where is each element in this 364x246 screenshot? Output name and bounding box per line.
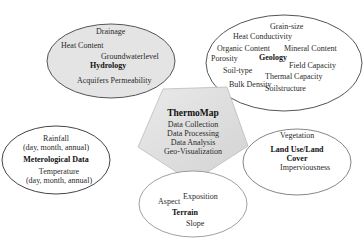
hydrology-item-heat-content: Heat Content [61,41,103,50]
hydrology-item-groundwaterlevel: Groundwaterlevel [101,52,159,61]
meteo-item-temperature: Temperature [19,167,99,176]
landuse-item-imperviousness: Imperviousness [280,163,330,172]
thermomap-item-data-processing: Data Processing [153,129,233,138]
terrain-title: Terrain [172,208,198,217]
meteo-item-rainfall-period: (day, month, annual) [16,143,96,152]
geology-item-field-capacity: Field Capacity [289,61,336,70]
hydrology-title: Hydrology [90,61,126,70]
geology-item-heat-conductivity: Heat Conductivity [233,32,292,41]
geology-item-soil-type: Soil-type [223,66,252,75]
landuse-title-line2: Cover [262,154,332,163]
hydrology-item-drainage: Drainage [96,27,125,36]
geology-item-grain-size: Grain-size [270,22,303,31]
landuse-title-line1: Land Use/Land [262,145,332,154]
meteo-item-temperature-period: (day, month, annual) [19,176,99,185]
landuse-item-vegetation: Vegetation [280,131,314,140]
terrain-item-slope: Slope [186,219,204,228]
terrain-item-aspect: Aspect [158,197,180,206]
meteo-title: Meterological Data [6,155,106,164]
meteo-item-rainfall: Rainfall [16,134,96,143]
thermomap-item-data-analysis: Data Analysis [153,138,233,147]
geology-title: Geology [259,53,287,62]
thermomap-item-geo-visualization: Geo-Visualization [153,147,233,156]
thermomap-title: ThermoMap [153,109,233,118]
geology-item-mineral-content: Mineral Content [284,44,337,53]
terrain-item-exposition: Exposition [183,192,218,201]
geology-item-organic-content: Organic Content [217,44,270,53]
hydrology-item-acquifers: Acquifers Permeability [77,76,151,85]
geology-item-thermal-capacity: Thermal Capacity [265,72,323,81]
geology-item-soilstructure: Soilstructure [265,84,306,93]
geology-item-porosity: Porosity [211,54,238,63]
thermomap-item-data-collection: Data Collection [153,120,233,129]
